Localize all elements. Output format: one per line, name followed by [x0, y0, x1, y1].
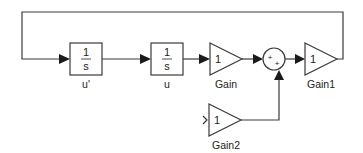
integrator2-label: u	[164, 78, 170, 90]
gain1-block[interactable]: 1	[305, 43, 337, 75]
integrator2-block[interactable]: 1 s	[151, 43, 183, 75]
integrator1-label: u'	[82, 78, 90, 90]
gain1-label: Gain1	[307, 78, 335, 90]
integrator2-numerator: 1	[164, 46, 170, 58]
block-diagram-canvas: 1 s u' 1 s u 1 Gain + + 1 Gain1 1 Gain2	[0, 0, 363, 153]
arrowhead-gain-input	[199, 54, 210, 64]
arrowhead-sum-input2	[274, 70, 284, 80]
arrowhead-gain1-input	[295, 54, 305, 64]
gain2-value: 1	[214, 114, 220, 126]
sum-sign-2: +	[275, 59, 280, 68]
integrator2-denominator: s	[164, 60, 170, 72]
signal-line-gain2-to-sum[interactable]	[241, 78, 279, 120]
gain-label: Gain	[215, 78, 237, 90]
integrator1-denominator: s	[83, 60, 89, 72]
integrator1-numerator: 1	[83, 46, 89, 58]
arrowhead-integrator2-input	[140, 54, 151, 64]
gain2-label: Gain2	[212, 139, 240, 151]
sum-block[interactable]: + +	[263, 48, 285, 70]
gain1-value: 1	[310, 53, 316, 65]
integrator1-block[interactable]: 1 s	[70, 43, 102, 75]
arrowhead-sum-input1	[253, 54, 263, 64]
gain-value: 1	[215, 53, 221, 65]
gain-block[interactable]: 1	[210, 43, 242, 75]
gain2-block[interactable]: 1	[203, 104, 241, 136]
arrowhead-integrator1-input	[59, 54, 70, 64]
unconnected-input-port-icon	[203, 116, 207, 124]
sum-sign-1: +	[268, 53, 273, 62]
